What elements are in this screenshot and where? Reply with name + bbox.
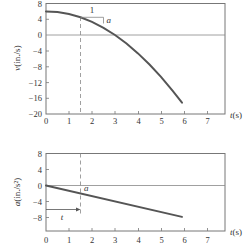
x-tick-label: 7: [205, 116, 209, 126]
y-tick-label: −8: [33, 62, 42, 72]
x-tick-label: 4: [136, 116, 141, 126]
y-tick-label: 8: [38, 0, 42, 9]
y-tick-label: 0: [38, 181, 42, 191]
y-tick-label: 4: [38, 165, 43, 175]
y-tick-label: −12: [29, 78, 42, 88]
x-tick-label: 2: [90, 116, 94, 126]
x-tick-label: 2: [90, 235, 94, 245]
x-tick-label: 3: [113, 235, 117, 245]
x-tick-label: 0: [44, 116, 48, 126]
x-axis-label: t(s): [230, 227, 242, 237]
y-axis-label: v(in./s): [12, 45, 22, 70]
run-label: 1: [90, 5, 95, 15]
acceleration-chart: 8 4 0 −4 −8 0 1 2 3 4 5 6 7 t(s) a(in./s…: [12, 149, 242, 246]
y-tick-label: −4: [33, 197, 43, 207]
x-tick-labels: 0 1 2 3 4 5 6 7: [44, 116, 210, 126]
x-tick-label: 5: [159, 235, 163, 245]
x-tick-label: 6: [182, 235, 186, 245]
y-tick-labels: 8 4 0 −4 −8 −12 −16 −20: [29, 0, 43, 119]
acceleration-line: [46, 186, 182, 217]
x-tick-label: 3: [113, 116, 117, 126]
velocity-curve: [46, 11, 182, 102]
time-arrow: [46, 208, 81, 212]
x-tick-label: 0: [44, 235, 48, 245]
x-tick-label: 1: [67, 235, 71, 245]
x-tick-label: 7: [205, 235, 209, 245]
x-axis-label: t(s): [230, 110, 242, 120]
y-tick-label: −4: [33, 46, 43, 56]
plot-frame: [46, 4, 225, 115]
x-tick-labels: 0 1 2 3 4 5 6 7: [44, 235, 210, 245]
y-tick-label: 0: [38, 30, 42, 40]
arrowhead-icon: [76, 208, 81, 212]
velocity-chart: 8 4 0 −4 −8 −12 −16 −20 0 1 2 3 4 5 6 7 …: [12, 0, 242, 126]
point-label: a: [84, 183, 89, 193]
y-tick-label: 8: [38, 149, 42, 159]
y-axis-label: a(in./s²): [12, 178, 22, 206]
x-tick-label: 5: [159, 116, 163, 126]
y-tick-label: −16: [29, 93, 42, 103]
x-tick-label: 4: [136, 235, 141, 245]
y-tick-label: −20: [29, 109, 42, 119]
rise-label: a: [107, 15, 112, 25]
x-tick-label: 6: [182, 116, 186, 126]
arrow-label: t: [61, 212, 64, 222]
x-tick-label: 1: [67, 116, 71, 126]
y-tick-label: 4: [38, 14, 43, 24]
chart-figure: 8 4 0 −4 −8 −12 −16 −20 0 1 2 3 4 5 6 7 …: [0, 0, 250, 247]
y-tick-labels: 8 4 0 −4 −8: [33, 149, 43, 223]
y-tick-label: −8: [33, 213, 42, 223]
